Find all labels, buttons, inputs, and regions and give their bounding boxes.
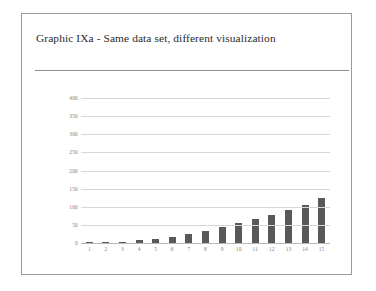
bar-7[interactable]: [185, 234, 192, 243]
x-axis-tick-label: 6: [164, 246, 181, 252]
x-axis-tick-label: 14: [297, 246, 314, 252]
y-axis-tick-label: 200: [38, 168, 78, 174]
x-axis-tick-label: 5: [147, 246, 164, 252]
screenshot-canvas: Graphic IXa - Same data set, different v…: [0, 0, 376, 291]
x-axis-tick-label: 4: [131, 246, 148, 252]
bar-9[interactable]: [219, 227, 226, 243]
gridline-350: [81, 116, 330, 117]
y-axis-tick-label: 350: [38, 113, 78, 119]
x-axis-tick-label: 11: [247, 246, 264, 252]
y-axis-tick-label: 100: [38, 204, 78, 210]
y-axis-tick-label: 50: [38, 222, 78, 228]
y-axis-tick-label: 400: [38, 95, 78, 101]
chart-x-axis: 123456789101112131415: [81, 246, 330, 252]
gridline-200: [81, 171, 330, 172]
bar-11[interactable]: [252, 219, 259, 243]
bar-12[interactable]: [268, 215, 275, 243]
gridline-300: [81, 134, 330, 135]
x-axis-tick-label: 9: [214, 246, 231, 252]
gridline-400: [81, 98, 330, 99]
bar-10[interactable]: [235, 223, 242, 243]
y-axis-tick-label: 250: [38, 149, 78, 155]
x-axis-tick-label: 13: [280, 246, 297, 252]
x-axis-tick-label: 3: [114, 246, 131, 252]
bar-13[interactable]: [285, 210, 292, 243]
x-axis-tick-label: 1: [81, 246, 98, 252]
y-axis-tick-label: 150: [38, 186, 78, 192]
x-axis-tick-label: 15: [313, 246, 330, 252]
bar-8[interactable]: [202, 231, 209, 243]
x-axis-tick-label: 2: [98, 246, 115, 252]
chart-plot-area: 050100150200250300350400: [81, 98, 330, 243]
gridline-50: [81, 225, 330, 226]
x-axis-tick-label: 10: [230, 246, 247, 252]
bar-15[interactable]: [318, 198, 325, 243]
x-axis-tick-label: 7: [181, 246, 198, 252]
x-axis-tick-label: 12: [264, 246, 281, 252]
x-axis-tick-label: 8: [197, 246, 214, 252]
gridline-100: [81, 207, 330, 208]
gridline-250: [81, 152, 330, 153]
slide-card: Graphic IXa - Same data set, different v…: [21, 13, 352, 275]
gridline-150: [81, 189, 330, 190]
y-axis-tick-label: 0: [38, 240, 78, 246]
gridline-0: [81, 243, 330, 244]
y-axis-tick-label: 300: [38, 131, 78, 137]
page-title: Graphic IXa - Same data set, different v…: [36, 32, 336, 44]
bar-chart: 050100150200250300350400 123456789101112…: [35, 82, 342, 258]
title-divider: [35, 70, 349, 71]
